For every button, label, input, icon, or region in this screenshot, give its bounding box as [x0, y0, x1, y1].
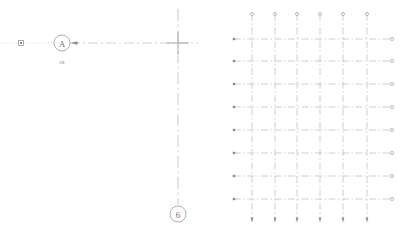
- grid-column-bottom-nodes: [251, 218, 369, 223]
- grid-node-icon: [319, 13, 322, 16]
- grid-row-right-nodes: [390, 37, 393, 200]
- grid-bubble-6[interactable]: 6: [170, 206, 186, 222]
- grid-node-icon: [233, 129, 235, 131]
- grid-node-icon: [390, 197, 393, 200]
- grid-node-icon: [296, 13, 299, 16]
- grid-node-icon: [390, 82, 393, 85]
- drawing-canvas: A 2B 6: [0, 0, 406, 233]
- grid-node-icon: [233, 60, 235, 62]
- grid-node-icon: [233, 175, 235, 177]
- grid-tick-icon: [296, 218, 299, 223]
- grid-node-icon: [390, 59, 393, 62]
- technical-drawing-svg: A 2B 6: [0, 0, 406, 233]
- grid-bubble-a[interactable]: A: [54, 35, 70, 51]
- arrow-left-icon: [71, 41, 78, 45]
- grid-tick-icon: [366, 218, 369, 223]
- grid-columns: [252, 14, 367, 222]
- grid-node-icon: [251, 13, 254, 16]
- grid-node-icon: [390, 174, 393, 177]
- grid-node-icon: [366, 13, 369, 16]
- grid-bubble-a-label: A: [59, 39, 66, 49]
- crosshair-icon: [167, 32, 189, 54]
- grid-node-icon: [233, 38, 235, 40]
- dimension-label-2b: 2B: [59, 60, 65, 65]
- grid-node-icon: [390, 105, 393, 108]
- grid-node-icon: [233, 198, 235, 200]
- grid-node-icon: [274, 13, 277, 16]
- grid-node-icon: [233, 152, 235, 154]
- grid-node-icon: [390, 151, 393, 154]
- grid-tick-icon: [342, 218, 345, 223]
- structural-grid-panel: [233, 13, 394, 223]
- grid-tick-icon: [274, 218, 277, 223]
- grid-node-icon: [233, 106, 235, 108]
- grid-node-icon: [342, 13, 345, 16]
- grid-rows: [234, 39, 392, 199]
- grid-row-left-nodes: [233, 38, 235, 200]
- grid-node-icon: [390, 128, 393, 131]
- grid-tick-icon: [319, 218, 322, 223]
- axis-callout-panel: A 2B 6: [0, 9, 198, 222]
- grid-column-top-nodes: [251, 13, 369, 16]
- grid-bubble-6-label: 6: [176, 210, 181, 220]
- grid-tick-icon: [251, 218, 254, 223]
- square-marker: [19, 41, 24, 46]
- grid-node-icon: [390, 37, 393, 40]
- grid-node-icon: [233, 83, 235, 85]
